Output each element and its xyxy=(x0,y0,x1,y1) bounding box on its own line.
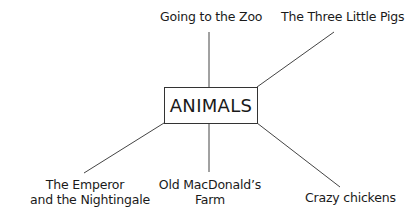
branch-crazy-chickens: Crazy chickens xyxy=(305,190,395,205)
branch-label: The Three Little Pigs xyxy=(281,9,404,24)
center-node-animals: ANIMALS xyxy=(164,87,258,124)
branch-label-line-1: Old MacDonald’s xyxy=(155,177,265,192)
branch-label-line-2: Farm xyxy=(155,192,265,207)
branch-label-line-2: and the Nightingale xyxy=(30,192,140,207)
connector-crazy-chickens xyxy=(257,123,340,187)
branch-label: Crazy chickens xyxy=(305,190,396,205)
connector-emperor-nightingale xyxy=(84,123,164,173)
center-node-label: ANIMALS xyxy=(170,95,253,116)
branch-emperor-nightingale: The Emperor and the Nightingale xyxy=(30,177,140,207)
connector-three-little-pigs xyxy=(257,32,334,87)
branch-old-macdonalds-farm: Old MacDonald’s Farm xyxy=(155,177,265,207)
branch-three-little-pigs: The Three Little Pigs xyxy=(281,9,397,24)
branch-going-to-the-zoo: Going to the Zoo xyxy=(160,9,260,24)
branch-label-line-1: The Emperor xyxy=(30,177,140,192)
branch-label: Going to the Zoo xyxy=(160,9,262,24)
